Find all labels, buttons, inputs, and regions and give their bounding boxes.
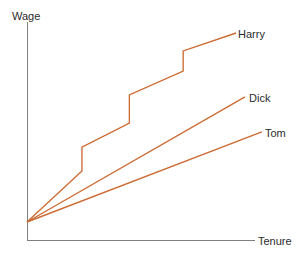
chart-canvas: Wage Tenure Harry Dick Tom <box>0 0 306 257</box>
series-label-tom: Tom <box>265 127 286 139</box>
series-label-dick: Dick <box>249 92 271 104</box>
series-line-tom <box>27 132 262 222</box>
y-axis-label: Wage <box>12 10 40 22</box>
series-line-harry <box>27 33 236 222</box>
series-label-harry: Harry <box>238 28 265 40</box>
x-axis-label: Tenure <box>258 235 292 247</box>
wage-tenure-chart: Wage Tenure Harry Dick Tom <box>0 0 306 257</box>
series-line-dick <box>27 97 245 222</box>
